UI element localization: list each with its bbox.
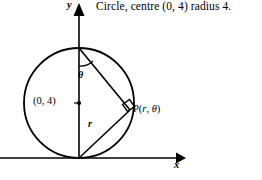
geometry-diagram — [0, 0, 262, 180]
figure-canvas: Circle, centre (0, 4) radius 4. y x (0, … — [0, 0, 262, 180]
theta-angle-label: θ — [78, 69, 83, 80]
point-p-prefix: P( — [133, 103, 142, 114]
point-p-suffix: ) — [157, 103, 161, 114]
point-p-label: P(r, θ) — [133, 103, 160, 114]
figure-caption: Circle, centre (0, 4) radius 4. — [96, 0, 231, 12]
radius-segment-label: r — [88, 118, 92, 129]
circle-centre-label: (0, 4) — [33, 95, 56, 106]
x-axis-label: x — [174, 159, 179, 170]
chord-top-to-p — [79, 48, 130, 110]
y-axis-label: y — [67, 0, 72, 10]
y-axis-arrowhead — [74, 3, 85, 16]
